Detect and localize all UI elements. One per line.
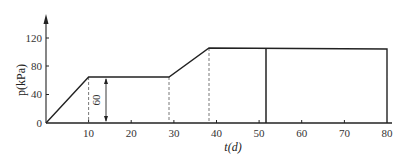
y-tick-label: 80 bbox=[31, 60, 43, 72]
x-tick-label: 20 bbox=[126, 127, 138, 139]
x-tick-label: 40 bbox=[211, 127, 223, 139]
arrow-down-icon bbox=[104, 116, 108, 122]
y-axis-title: p(kPa) bbox=[14, 64, 28, 96]
dimension-label: 60 bbox=[90, 94, 102, 106]
x-tick-label: 70 bbox=[339, 127, 351, 139]
x-axis-title: t(d) bbox=[224, 140, 241, 154]
guide-lines bbox=[89, 48, 209, 123]
x-tick-label: 30 bbox=[168, 127, 180, 139]
y-tick-label: 40 bbox=[31, 88, 43, 100]
x-tick-label: 80 bbox=[382, 127, 394, 139]
y-tick-label: 120 bbox=[26, 32, 43, 44]
x-tick-label: 50 bbox=[254, 127, 266, 139]
load-time-chart: 0 40 80 120 10 20 30 40 50 60 70 80 t(d)… bbox=[0, 0, 405, 161]
x-tick-label: 10 bbox=[83, 127, 95, 139]
y-axis-arrow-icon bbox=[44, 14, 49, 24]
load-curve bbox=[46, 48, 387, 123]
dimension-60-annotation: 60 bbox=[90, 78, 108, 122]
y-tick-label: 0 bbox=[37, 117, 43, 129]
arrow-up-icon bbox=[104, 78, 108, 84]
x-tick-label: 60 bbox=[296, 127, 308, 139]
